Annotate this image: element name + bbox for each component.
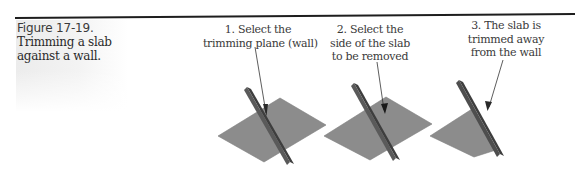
step-3-illustration [430, 60, 504, 157]
step-1-illustration [218, 47, 326, 165]
arrowhead-icon [485, 101, 492, 111]
arrow-icon [489, 60, 503, 107]
step-2-illustration [324, 62, 432, 161]
